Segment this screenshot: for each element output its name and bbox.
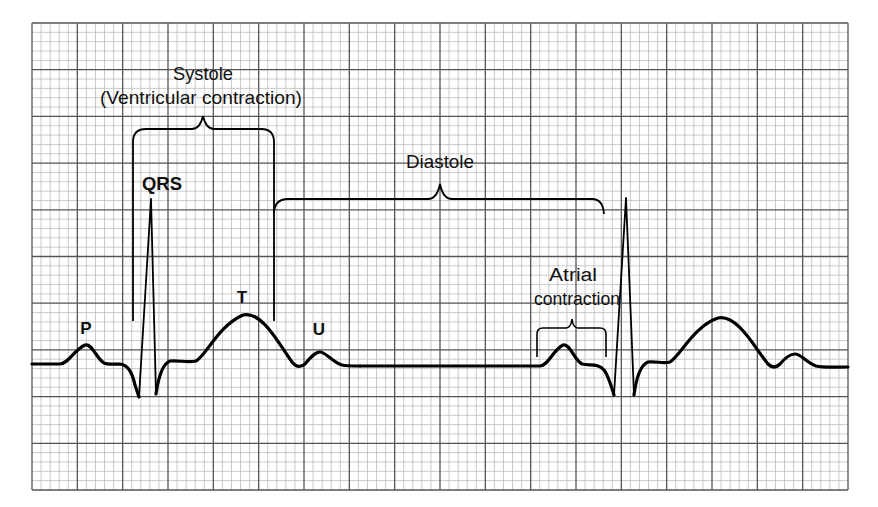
contraction-label: contraction xyxy=(534,289,620,309)
atrial-label: Atrial xyxy=(549,265,597,285)
t-wave-1 xyxy=(156,315,360,394)
systole-label: Systole xyxy=(173,63,233,84)
ecg-diagram: Systole (Ventricular contraction) Diasto… xyxy=(0,0,878,507)
diastole-label: Diastole xyxy=(406,151,474,172)
p-wave-label: P xyxy=(80,319,91,338)
ventricular-contraction-label: (Ventricular contraction) xyxy=(100,87,302,108)
qrs-label: QRS xyxy=(142,174,182,194)
t-wave-label: T xyxy=(237,288,248,307)
u-wave-label: U xyxy=(313,320,325,339)
